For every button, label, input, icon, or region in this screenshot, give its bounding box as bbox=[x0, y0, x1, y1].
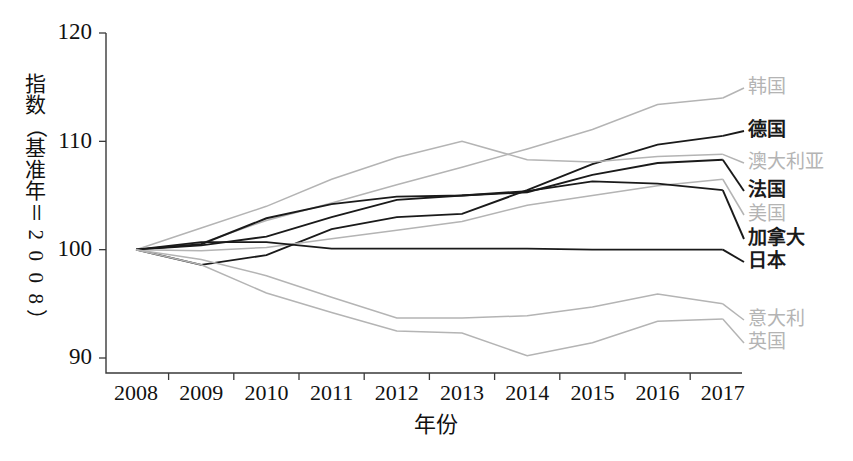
legend-leader-韩国 bbox=[723, 88, 744, 98]
legend-leader-日本 bbox=[723, 250, 744, 262]
x-axis-title: 年份 bbox=[414, 412, 458, 437]
x-tick-label: 2014 bbox=[505, 380, 549, 405]
y-tick-labels: 90100110120 bbox=[58, 19, 93, 369]
x-tick-label: 2010 bbox=[244, 380, 288, 405]
x-tick-label: 2017 bbox=[701, 380, 745, 405]
legend-label-澳大利亚: 澳大利亚 bbox=[748, 151, 824, 172]
y-tick-label: 110 bbox=[58, 128, 92, 153]
legend-label-法国: 法国 bbox=[748, 178, 786, 200]
y-tick-label: 120 bbox=[58, 19, 93, 44]
series-line-意大利 bbox=[136, 250, 723, 318]
chart-axes bbox=[99, 33, 742, 380]
legend-label-英国: 英国 bbox=[748, 331, 786, 352]
y-tick-marks bbox=[99, 33, 106, 358]
legend-leader-英国 bbox=[723, 319, 744, 343]
legend-leader-意大利 bbox=[723, 304, 744, 320]
series-line-法国 bbox=[136, 160, 723, 250]
series-lines bbox=[136, 98, 723, 356]
series-line-韩国 bbox=[136, 98, 723, 250]
series-line-德国 bbox=[136, 136, 723, 265]
legend-label-美国: 美国 bbox=[748, 203, 786, 224]
y-tick-label: 90 bbox=[69, 344, 92, 369]
chart-figure: 指数（基准年＝2008） 90100110120 200820092010201… bbox=[0, 0, 853, 461]
x-tick-labels: 2008200920102011201220132014201520162017 bbox=[114, 380, 745, 405]
axis-lines bbox=[106, 33, 742, 373]
x-tick-label: 2012 bbox=[375, 380, 419, 405]
y-tick-label: 100 bbox=[58, 236, 93, 261]
legend-leader-法国 bbox=[723, 160, 744, 191]
x-tick-label: 2008 bbox=[114, 380, 158, 405]
legend-leader-德国 bbox=[723, 131, 744, 136]
x-tick-label: 2011 bbox=[310, 380, 353, 405]
series-legend: 韩国德国澳大利亚法国美国加拿大日本意大利英国 bbox=[723, 76, 824, 352]
legend-label-意大利: 意大利 bbox=[748, 308, 805, 329]
legend-label-加拿大: 加拿大 bbox=[747, 226, 805, 248]
legend-label-德国: 德国 bbox=[748, 118, 786, 140]
x-tick-marks bbox=[169, 373, 691, 380]
x-tick-label: 2015 bbox=[570, 380, 614, 405]
legend-leader-澳大利亚 bbox=[723, 154, 744, 163]
line-chart-canvas: 90100110120 2008200920102011201220132014… bbox=[0, 0, 853, 461]
legend-label-日本: 日本 bbox=[748, 249, 786, 271]
x-tick-label: 2013 bbox=[440, 380, 484, 405]
x-tick-label: 2009 bbox=[179, 380, 223, 405]
legend-label-韩国: 韩国 bbox=[748, 76, 786, 97]
x-tick-label: 2016 bbox=[636, 380, 680, 405]
